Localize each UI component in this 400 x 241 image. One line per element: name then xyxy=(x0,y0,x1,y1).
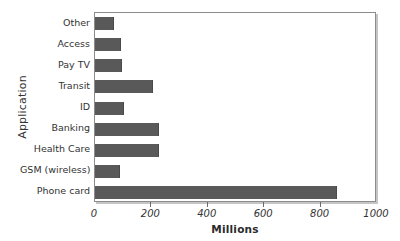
y-axis-tick-label: Phone card xyxy=(20,186,90,196)
plot-frame xyxy=(94,12,376,202)
bar xyxy=(95,102,124,115)
x-axis-tick-mark xyxy=(320,202,321,207)
bar xyxy=(95,186,337,199)
bar xyxy=(95,144,159,157)
y-axis-tick-label: Transit xyxy=(20,81,90,91)
x-axis-tick-label: 600 xyxy=(254,208,273,220)
y-axis-tick-label: GSM (wireless) xyxy=(20,165,90,175)
y-axis-tick-labels: OtherAccessPay TVTransitIDBankingHealth … xyxy=(20,12,90,202)
x-axis-tick-label: 400 xyxy=(197,208,216,220)
y-axis-tick-label: Pay TV xyxy=(20,60,90,70)
x-axis-tick-label: 800 xyxy=(310,208,329,220)
x-axis-title: Millions xyxy=(94,223,376,235)
y-axis-tick-label: Health Care xyxy=(20,144,90,154)
bar xyxy=(95,80,153,93)
y-axis-tick-label: Banking xyxy=(20,123,90,133)
bar xyxy=(95,165,120,178)
x-axis-tick-mark xyxy=(207,202,208,207)
y-axis-tick-label: Access xyxy=(20,39,90,49)
plot-area xyxy=(95,13,375,201)
x-axis-tick-label: 1000 xyxy=(363,208,388,220)
bar xyxy=(95,17,114,30)
x-axis-tick-label: 0 xyxy=(91,208,97,220)
bar xyxy=(95,59,122,72)
x-axis-tick-mark xyxy=(263,202,264,207)
y-axis-tick-label: ID xyxy=(20,102,90,112)
x-axis-tick-labels: 02004006008001000 xyxy=(94,208,376,222)
bar xyxy=(95,123,159,136)
bar-chart: Application OtherAccessPay TVTransitIDBa… xyxy=(0,0,400,241)
x-axis-tick-label: 200 xyxy=(141,208,160,220)
bar xyxy=(95,38,121,51)
y-axis-tick-label: Other xyxy=(20,18,90,28)
x-axis-tick-mark xyxy=(150,202,151,207)
